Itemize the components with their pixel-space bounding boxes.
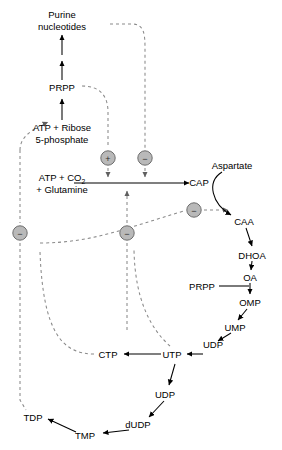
pathway-diagram: + − − − − Purine nucleotides PRPP [0, 0, 282, 450]
node-oa: OA [243, 272, 257, 283]
edge-utp-to-udp-low [169, 364, 175, 385]
edge-tdp-feedback-up [20, 243, 26, 410]
node-udp-top: UDP [203, 339, 223, 350]
node-ctp: CTP [99, 349, 118, 360]
edge-ctp-feedback-up [40, 252, 94, 354]
edge-caa-inhibition-line [40, 211, 184, 243]
node-udp-low: UDP [155, 389, 175, 400]
solid-reaction-edges [48, 35, 252, 433]
regulator-sign: − [124, 229, 129, 239]
regulator-sign: − [142, 154, 147, 164]
edge-dudp-to-tmp [103, 430, 129, 433]
node-caa: CAA [234, 216, 254, 227]
node-cap: CAP [189, 177, 209, 188]
node-prpp-mid: PRPP [189, 281, 215, 292]
regulator-sign: + [105, 154, 110, 164]
node-atp-ribose-line2: 5-phosphate [36, 134, 89, 145]
node-ump: UMP [224, 322, 245, 333]
regulator-nodes: + − − − − [13, 151, 201, 240]
regulator-sign: − [191, 206, 196, 216]
node-tmp: TMP [75, 430, 95, 441]
node-tdp: TDP [24, 412, 43, 423]
regulator-activation-prpp[interactable]: + [101, 151, 115, 165]
node-omp: OMP [239, 297, 261, 308]
edge-purine-feedback-to-cap [110, 24, 145, 148]
node-dhoa: DHOA [238, 250, 266, 261]
edge-tmp-to-tdp [48, 419, 76, 432]
node-purine-line1: Purine [48, 9, 75, 20]
node-atp-ribose-line1: ATP + Ribose [33, 122, 91, 133]
pathway-svg: + − − − − Purine nucleotides PRPP [0, 0, 282, 450]
node-aspartate: Aspartate [212, 160, 253, 171]
node-purine-line2: nucleotides [38, 21, 86, 32]
edge-aspartate-to-caa [213, 172, 231, 215]
edge-caa-to-dhoa [246, 228, 252, 246]
node-utp: UTP [163, 349, 182, 360]
edge-utp-feedback-up [134, 250, 170, 346]
node-atp-co2-line2: + Glutamine [36, 184, 88, 195]
edge-omp-to-ump [238, 309, 247, 320]
node-prpp-top: PRPP [49, 82, 75, 93]
regulator-inhibition-left[interactable]: − [13, 226, 27, 240]
regulator-inhibition-cap[interactable]: − [138, 151, 152, 165]
edge-udp-low-to-dudp [149, 401, 164, 417]
node-dudp: dUDP [125, 419, 150, 430]
node-atp-co2-line1: ATP + CO2 [39, 172, 86, 185]
edge-dhoa-to-oa [251, 261, 252, 270]
regulator-inhibition-caa[interactable]: − [187, 203, 201, 217]
regulator-sign: − [17, 229, 22, 239]
regulator-inhibition-mid[interactable]: − [120, 226, 134, 240]
